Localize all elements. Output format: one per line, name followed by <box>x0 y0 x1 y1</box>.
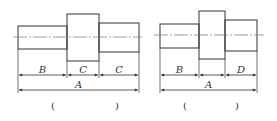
stepped-shaft-diagram: BCCA() BDA() <box>0 0 277 121</box>
answer-blank-close: ) <box>235 100 239 111</box>
dimension-label-a: A <box>74 79 82 90</box>
answer-blank-open: ( <box>51 100 55 111</box>
dimension-label-c: C <box>79 64 87 75</box>
dimension-label-a: A <box>204 79 212 90</box>
shaft-segment-3 <box>99 23 139 52</box>
shaft-segment-3 <box>225 20 257 51</box>
figure-left-shaft: BCCA() <box>13 14 142 111</box>
dimension-label-d: D <box>236 64 245 75</box>
shaft-segment-2 <box>67 14 99 61</box>
dimension-label-c: C <box>115 64 123 75</box>
shaft-segment-1 <box>18 26 67 49</box>
dimension-label-b: B <box>38 64 46 75</box>
answer-blank-close: ) <box>115 100 119 111</box>
figure-right-shaft: BDA() <box>154 11 264 111</box>
shaft-segment-1 <box>160 24 199 48</box>
answer-blank-open: ( <box>183 100 187 111</box>
dimension-label-b: B <box>175 64 183 75</box>
